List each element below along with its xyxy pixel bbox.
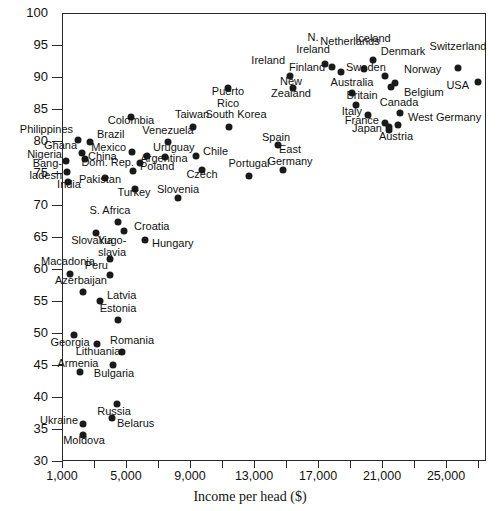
data-point-label: South Korea bbox=[205, 109, 266, 121]
y-tick-label: 70 bbox=[0, 198, 48, 211]
x-tick-label: 1,000 bbox=[46, 470, 77, 483]
data-point-label: Spain bbox=[262, 132, 290, 144]
data-point-label: Bulgaria bbox=[94, 368, 134, 380]
y-tick bbox=[52, 429, 62, 430]
data-point-label: Moldova bbox=[63, 435, 105, 447]
data-point[interactable] bbox=[226, 124, 233, 131]
data-point[interactable] bbox=[280, 167, 287, 174]
data-point-label: Belarus bbox=[117, 418, 154, 430]
y-tick-label: 100 bbox=[0, 6, 48, 19]
data-point-label: Turkey bbox=[117, 187, 150, 199]
data-point[interactable] bbox=[382, 73, 389, 80]
data-point[interactable] bbox=[455, 65, 462, 72]
data-point-label: India bbox=[57, 179, 81, 191]
y-tick bbox=[52, 109, 62, 110]
x-tick bbox=[158, 461, 159, 468]
x-tick bbox=[126, 461, 127, 468]
y-tick bbox=[52, 205, 62, 206]
y-tick bbox=[52, 333, 62, 334]
x-tick-label: 13,000 bbox=[235, 470, 273, 483]
data-point-label: Latvia bbox=[107, 290, 136, 302]
data-point-label: Hungary bbox=[152, 238, 194, 250]
y-tick-label: 90 bbox=[0, 70, 48, 83]
data-point-label: Croatia bbox=[134, 221, 169, 233]
data-point[interactable] bbox=[80, 289, 87, 296]
data-point[interactable] bbox=[80, 421, 87, 428]
data-point-label: Yugo- slavia bbox=[98, 235, 127, 258]
data-point-label: Armenia bbox=[58, 358, 99, 370]
data-point-label: Pakistan bbox=[79, 174, 121, 186]
data-point[interactable] bbox=[246, 173, 253, 180]
data-point-label: East Germany bbox=[267, 144, 312, 167]
data-point[interactable] bbox=[142, 237, 149, 244]
data-point[interactable] bbox=[175, 195, 182, 202]
x-tick bbox=[254, 461, 255, 468]
scatter-chart: 1009590858075706560555045403530 1,0005,0… bbox=[0, 0, 500, 511]
data-point-label: Philippines bbox=[20, 124, 73, 136]
data-point[interactable] bbox=[395, 122, 402, 129]
x-tick bbox=[382, 461, 383, 468]
data-point[interactable] bbox=[107, 272, 114, 279]
x-tick bbox=[350, 461, 351, 468]
x-tick-label: 9,000 bbox=[174, 470, 205, 483]
data-point[interactable] bbox=[115, 219, 122, 226]
data-point-label: Czech bbox=[186, 169, 217, 181]
data-point-label: Denmark bbox=[381, 46, 426, 58]
x-tick bbox=[446, 461, 447, 468]
x-tick bbox=[414, 461, 415, 468]
data-point-label: Britain bbox=[346, 90, 377, 102]
x-tick bbox=[478, 461, 479, 468]
data-point-label: Portugal bbox=[229, 158, 270, 170]
data-point-label: New Zealand bbox=[271, 76, 311, 99]
data-point-label: Estonia bbox=[100, 303, 137, 315]
data-point-label: Puerto Rico bbox=[212, 86, 244, 109]
data-point[interactable] bbox=[129, 149, 136, 156]
data-point[interactable] bbox=[64, 169, 71, 176]
data-point-label: Switzerland bbox=[430, 41, 487, 53]
data-point-label: USA bbox=[446, 80, 469, 92]
x-axis-title: Income per head ($) bbox=[0, 489, 500, 505]
data-point-label: Dom. Rep. bbox=[81, 157, 134, 169]
y-tick-label: 80 bbox=[0, 134, 48, 147]
y-tick-label: 50 bbox=[0, 326, 48, 339]
data-point-label: Poland bbox=[140, 161, 174, 173]
data-point[interactable] bbox=[130, 168, 137, 175]
data-point[interactable] bbox=[397, 110, 404, 117]
x-tick-label: 25,000 bbox=[427, 470, 465, 483]
y-tick-label: 95 bbox=[0, 38, 48, 51]
data-point-label: Canada bbox=[380, 97, 419, 109]
x-tick-label: 17,000 bbox=[299, 470, 337, 483]
data-point[interactable] bbox=[109, 415, 116, 422]
data-point-label: Australia bbox=[331, 77, 374, 89]
y-tick-label: 30 bbox=[0, 454, 48, 467]
data-point-label: Lithuania bbox=[76, 346, 121, 358]
data-point[interactable] bbox=[63, 158, 70, 165]
data-point-label: Taiwan bbox=[175, 109, 209, 121]
data-point-label: Finland bbox=[289, 62, 325, 74]
y-tick bbox=[52, 397, 62, 398]
x-tick-label: 21,000 bbox=[363, 470, 401, 483]
data-point[interactable] bbox=[338, 69, 345, 76]
data-point-label: Chile bbox=[203, 146, 228, 158]
data-point[interactable] bbox=[193, 153, 200, 160]
data-point[interactable] bbox=[77, 369, 84, 376]
data-point-label: Venezuela bbox=[142, 125, 193, 137]
x-tick bbox=[286, 461, 287, 468]
data-point-label: Ireland bbox=[251, 55, 285, 67]
data-point-label: Sweden bbox=[346, 62, 386, 74]
data-point[interactable] bbox=[115, 317, 122, 324]
x-tick bbox=[222, 461, 223, 468]
data-point[interactable] bbox=[329, 64, 336, 71]
x-tick bbox=[62, 461, 63, 468]
y-tick-label: 40 bbox=[0, 390, 48, 403]
data-point-label: S. Africa bbox=[90, 205, 131, 217]
y-tick bbox=[52, 45, 62, 46]
data-point-label: Slovenia bbox=[157, 184, 199, 196]
y-tick bbox=[52, 301, 62, 302]
data-point[interactable] bbox=[475, 79, 482, 86]
data-point-label: Norway bbox=[404, 64, 441, 76]
data-point[interactable] bbox=[388, 84, 395, 91]
data-point-label: Japan bbox=[352, 123, 382, 135]
data-point-label: Austria bbox=[379, 131, 413, 143]
data-point-label: West Germany bbox=[408, 112, 481, 124]
